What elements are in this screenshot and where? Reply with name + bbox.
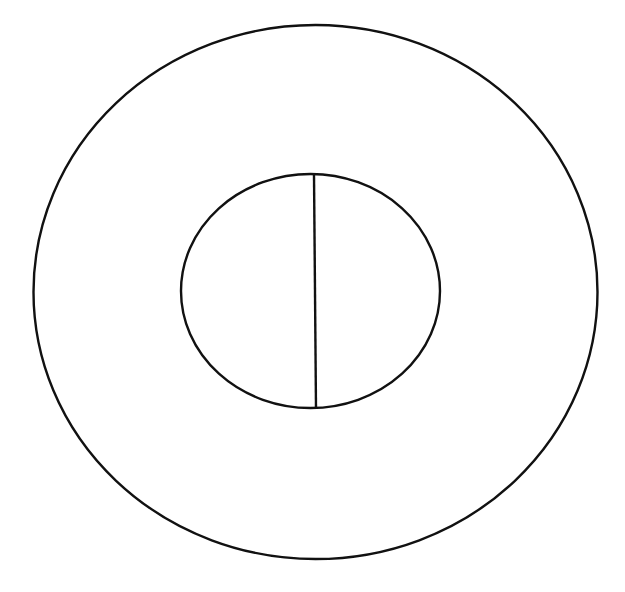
vertical-divider-line <box>314 175 316 408</box>
inner-circle <box>181 174 440 408</box>
concentric-circles-diagram <box>0 0 625 592</box>
